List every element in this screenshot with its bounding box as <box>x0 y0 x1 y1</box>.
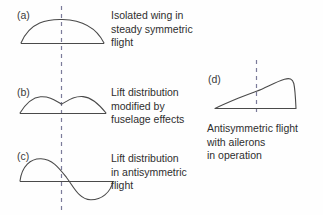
panel-b-plot <box>20 97 106 114</box>
panel-c-lift-curve <box>20 159 113 200</box>
panel-d-plot <box>215 79 296 109</box>
panel-caption-d: Antisymmetric flight with ailerons in op… <box>207 122 298 163</box>
panel-caption-b: Lift distribution modified by fuselage e… <box>111 86 184 127</box>
panel-b-lift-curve <box>20 97 106 113</box>
panel-caption-c: Lift distribution in antisymmetric fligh… <box>111 152 187 193</box>
panel-a-lift-curve <box>21 19 104 43</box>
panel-a-plot <box>21 19 104 43</box>
panel-label-b: (b) <box>17 86 30 98</box>
panel-label-a: (a) <box>17 9 30 21</box>
lift-distribution-figure: (a) (b) (c) (d) Isolated wing in steady … <box>0 0 323 215</box>
panel-caption-a: Isolated wing in steady symmetric flight <box>111 9 193 50</box>
panel-label-c: (c) <box>17 150 29 162</box>
panel-d-lift-curve <box>215 79 296 109</box>
panel-c-plot <box>20 159 113 200</box>
panel-label-d: (d) <box>208 73 221 85</box>
